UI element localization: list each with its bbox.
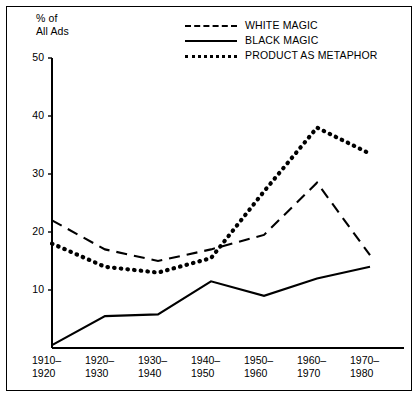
- x-tick-label: 1960– 1970: [297, 354, 341, 379]
- y-tick-label: 20: [18, 225, 44, 237]
- x-tick-label: 1930– 1940: [138, 354, 182, 379]
- legend-item-white-magic: WHITE MAGIC: [185, 18, 378, 32]
- chart-border: [6, 6, 412, 391]
- legend-label-product-as-metaphor: PRODUCT AS METAPHOR: [245, 49, 378, 61]
- x-tick-label: 1950– 1960: [244, 354, 288, 379]
- y-tick-label: 40: [18, 109, 44, 121]
- y-tick-label: 10: [18, 283, 44, 295]
- x-tick-label: 1910– 1920: [32, 354, 76, 379]
- legend-item-product-as-metaphor: PRODUCT AS METAPHOR: [185, 48, 378, 62]
- y-axis-title: % of All Ads: [36, 12, 69, 37]
- chart-figure: % of All Ads WHITE MAGIC BLACK MAGIC PRO…: [0, 0, 418, 397]
- chart-legend: WHITE MAGIC BLACK MAGIC PRODUCT AS METAP…: [185, 18, 378, 62]
- y-axis-title-text: % of All Ads: [36, 12, 69, 37]
- legend-solid-line-icon: [185, 34, 237, 46]
- legend-dotted-line-icon: [185, 49, 237, 61]
- legend-label-white-magic: WHITE MAGIC: [245, 19, 318, 31]
- legend-dashed-line-icon: [185, 19, 237, 31]
- x-tick-label: 1940– 1950: [191, 354, 235, 379]
- x-tick-label: 1920– 1930: [85, 354, 129, 379]
- legend-label-black-magic: BLACK MAGIC: [245, 34, 318, 46]
- x-tick-label: 1970– 1980: [350, 354, 394, 379]
- y-tick-label: 30: [18, 167, 44, 179]
- y-tick-label: 50: [18, 51, 44, 63]
- legend-item-black-magic: BLACK MAGIC: [185, 33, 378, 47]
